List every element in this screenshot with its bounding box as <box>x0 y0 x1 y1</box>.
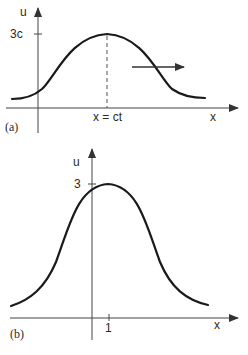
u-axis-label-b: u <box>73 155 80 169</box>
panel-b: u 3 1 x (b) <box>10 149 238 341</box>
peak-value-label-b: 3 <box>74 177 81 191</box>
panel-a: u 3c x = ct x (a) <box>5 5 238 134</box>
x-axis-label-b: x <box>214 318 220 332</box>
panel-tag-b: (b) <box>10 327 24 341</box>
peak-position-label-a: x = ct <box>93 110 123 124</box>
x-axis-label-a: x <box>210 110 216 124</box>
wave-curve-b <box>11 184 208 306</box>
x-tick-label-b: 1 <box>105 321 112 335</box>
panel-tag-a: (a) <box>5 120 18 134</box>
peak-value-label-a: 3c <box>10 27 23 41</box>
u-axis-label-a: u <box>20 5 27 19</box>
figure-canvas: u 3c x = ct x (a) u 3 1 x (b) <box>0 0 248 355</box>
